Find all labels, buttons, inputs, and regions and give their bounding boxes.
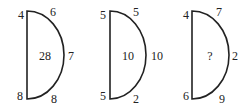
shape-1-bottom-left-value: 8: [17, 90, 23, 102]
shape-3-bottom-left-value: 6: [183, 90, 189, 102]
shape-2-center-value: 10: [122, 50, 134, 62]
shape-1-top-left-value: 4: [18, 9, 24, 21]
shape-2-top-left-value: 5: [100, 9, 106, 21]
shape-3-top-right-value: 7: [216, 6, 222, 18]
shape-3-top-left-value: 4: [183, 9, 189, 21]
shape-2-bottom-right-value: 2: [133, 93, 139, 105]
shape-1-center-value: 28: [39, 50, 51, 62]
number-puzzle: 4 6 7 8 8 28 5 5 10 5 2 10 4 7 2 6 9 ?: [0, 0, 250, 107]
shape-3-bottom-right-value: 9: [219, 93, 225, 105]
shape-1-right-value: 7: [68, 50, 74, 62]
shape-1-top-right-value: 6: [50, 6, 56, 18]
shape-1-bottom-right-value: 8: [51, 93, 57, 105]
shape-3-right-value: 2: [232, 50, 238, 62]
shape-2-top-right-value: 5: [133, 6, 139, 18]
shape-2-right-value: 10: [151, 50, 163, 62]
shape-2-bottom-left-value: 5: [100, 90, 106, 102]
shape-3-center-unknown-value: ?: [207, 50, 212, 62]
